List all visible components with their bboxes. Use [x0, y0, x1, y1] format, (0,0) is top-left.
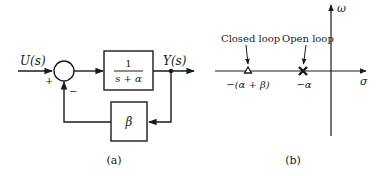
input-label: U(s) [20, 54, 46, 68]
forward-numerator: 1 [125, 58, 131, 69]
forward-denominator: s + α [115, 73, 142, 84]
output-label: Y(s) [163, 54, 187, 68]
caption-a: (a) [106, 154, 121, 167]
open-loop-pointer-arrow [304, 45, 307, 64]
closed-loop-pole-triangle-icon [245, 67, 252, 73]
sigma-axis-label: σ [360, 75, 368, 88]
closed-loop-pole-label: −(α + β) [226, 79, 270, 90]
plus-sign: + [45, 75, 53, 86]
minus-sign: − [69, 86, 77, 97]
closed-loop-label: Closed loop [221, 33, 280, 44]
caption-b: (b) [285, 154, 301, 167]
s-plane [215, 5, 366, 136]
summing-junction [54, 61, 74, 81]
open-loop-pole-label: −α [296, 79, 311, 90]
open-loop-label: Open loop [282, 33, 334, 44]
feedback-gain-label: β [125, 115, 133, 129]
closed-loop-pointer-arrow [246, 45, 248, 64]
omega-axis-label: ω [337, 2, 346, 15]
figure: U(s) + − 1 s + α Y(s) β (a) ω σ Closed l… [0, 0, 387, 176]
